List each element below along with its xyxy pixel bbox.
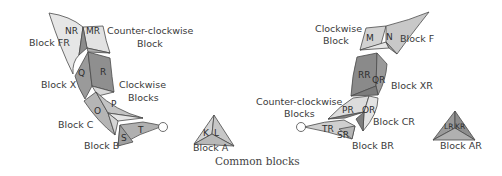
blocks-diagram: NR MR Q R O P S T Block FR Counter-clock…	[0, 0, 502, 176]
segment-p: P	[111, 99, 117, 109]
segment-n: N	[386, 32, 393, 42]
segment-mr: MR	[86, 26, 100, 36]
label-block-fr: Block FR	[29, 37, 70, 48]
label-block-c: Block C	[58, 119, 94, 130]
right-spine: M N RR QR PR OR TR SR Clockwise Block Bl…	[256, 12, 434, 151]
label-ccw-blocks-line1: Counter-clockwise	[256, 96, 343, 107]
segment-l: L	[214, 128, 219, 138]
segment-pr: PR	[342, 105, 354, 115]
left-spine: NR MR Q R O P S T Block FR Counter-clock…	[29, 13, 194, 151]
label-cw-blocks-line1: Clockwise	[119, 79, 166, 90]
label-ccw-block-line1: Counter-clockwise	[107, 25, 194, 36]
segment-rr: RR	[358, 70, 371, 80]
segment-o: O	[94, 106, 101, 116]
left-pivot-circle	[159, 123, 168, 132]
segment-lr: LR	[444, 122, 453, 131]
segment-qr: QR	[372, 75, 385, 85]
segment-r: R	[100, 67, 106, 77]
label-block-f: Block F	[400, 33, 434, 44]
segment-tr: TR	[321, 124, 334, 134]
segment-q: Q	[78, 68, 85, 78]
label-block-b: Block B	[84, 140, 119, 151]
segment-s: S	[121, 133, 127, 143]
segment-nr: NR	[65, 26, 78, 36]
segment-sr: SR	[337, 130, 349, 140]
diagram-caption: Common blocks	[215, 155, 300, 167]
label-ccw-block-line2: Block	[137, 38, 163, 49]
segment-t: T	[137, 125, 144, 135]
label-cw-blocks-line2: Blocks	[128, 92, 159, 103]
label-cw-block-line2: Block	[323, 35, 349, 46]
segment-kr: KR	[455, 122, 465, 131]
label-block-x: Block X	[41, 79, 77, 90]
label-block-br: Block BR	[352, 140, 394, 151]
block-a: K L Block A	[193, 115, 234, 153]
label-ccw-blocks-line2: Blocks	[284, 108, 315, 119]
segment-or: OR	[362, 105, 375, 115]
label-block-cr: Block CR	[373, 116, 415, 127]
label-block-a: Block A	[193, 142, 229, 153]
segment-m: M	[366, 33, 374, 43]
label-block-ar: Block AR	[440, 140, 482, 151]
label-block-xr: Block XR	[391, 80, 433, 91]
label-cw-block-line1: Clockwise	[315, 23, 362, 34]
right-pivot-circle	[297, 123, 306, 132]
block-ar: LR KR Block AR	[433, 111, 482, 151]
